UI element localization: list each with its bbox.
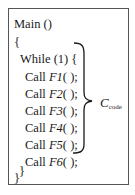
call-keyword: Call xyxy=(25,70,49,84)
c-symbol: C xyxy=(100,95,109,110)
call-keyword: Call xyxy=(25,155,49,169)
curly-brace-icon xyxy=(70,40,100,156)
code-line-while: While (1) { xyxy=(20,52,77,66)
code-line-close-main: } xyxy=(14,171,20,185)
call-suffix: ( ); xyxy=(63,155,78,169)
call-keyword: Call xyxy=(25,138,49,152)
function-name: F1 xyxy=(49,70,63,84)
function-name: F6 xyxy=(49,155,63,169)
call-keyword: Call xyxy=(25,104,49,118)
c-subscript: code xyxy=(109,103,122,111)
c-code-label: Ccode xyxy=(100,93,122,111)
code-line-open-brace: { xyxy=(14,35,20,49)
code-line-call-f6: Call F6( ); xyxy=(25,155,78,169)
function-name: F2 xyxy=(49,87,63,101)
call-keyword: Call xyxy=(25,121,49,135)
code-line-main: Main () xyxy=(14,17,52,31)
function-name: F4 xyxy=(49,121,63,135)
function-name: F5 xyxy=(49,138,63,152)
function-name: F3 xyxy=(49,104,63,118)
call-keyword: Call xyxy=(25,87,49,101)
